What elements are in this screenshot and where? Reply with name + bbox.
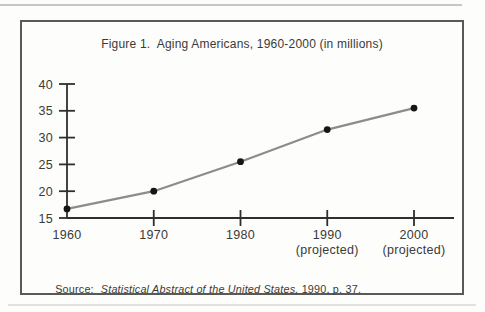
source-label: Source: [55,283,94,295]
scan-artifact-line-top [0,4,462,6]
y-axis-tick-label: 25 [38,158,53,172]
line-chart: 1520253035401960197019801990(projected)2… [22,22,462,293]
x-axis-tick-label: 1960 [52,228,81,242]
y-axis-tick-label: 40 [38,78,53,92]
figure-source: Source:Statistical Abstract of the Unite… [36,271,361,307]
data-point [237,158,244,165]
data-point [64,205,71,212]
x-axis-tick-label: 2000 [399,228,428,242]
y-axis-tick-label: 30 [38,131,53,145]
data-point [150,188,157,195]
x-axis-tick-label: 1970 [139,228,168,242]
source-detail: 1990, p. 37. [298,283,361,295]
y-axis-tick-label: 15 [38,212,53,226]
x-axis-tick-sublabel: (projected) [296,243,359,257]
data-point [411,105,418,112]
data-point [324,126,331,133]
x-axis-tick-label: 1990 [313,228,342,242]
y-axis-tick-label: 35 [38,104,53,118]
scanned-figure-page: Figure 1. Aging Americans, 1960-2000 (in… [0,0,485,312]
x-axis-tick-label: 1980 [226,228,255,242]
x-axis-tick-sublabel: (projected) [382,243,445,257]
source-work-title: Statistical Abstract of the United State… [101,283,299,295]
y-axis-tick-label: 20 [38,185,53,199]
figure-frame: Figure 1. Aging Americans, 1960-2000 (in… [20,20,464,295]
